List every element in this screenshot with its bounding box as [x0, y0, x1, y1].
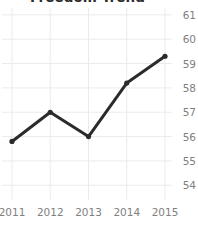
chart-canvas: [0, 0, 198, 225]
y-axis-tick-label: 58: [183, 83, 196, 94]
y-axis-tick-label: 56: [183, 131, 196, 142]
vertical-gridlines: [12, 8, 165, 200]
data-point-marker: [48, 110, 53, 115]
x-axis-tick-label: 2014: [113, 207, 140, 218]
horizontal-gridlines: [2, 15, 172, 185]
x-axis-tick-label: 2015: [152, 207, 179, 218]
data-point-marker: [162, 54, 167, 59]
y-axis-tick-label: 59: [183, 58, 196, 69]
y-axis-tick-label: 60: [183, 34, 196, 45]
y-axis-tick-label: 55: [183, 156, 196, 167]
x-axis-tick-label: 2012: [37, 207, 64, 218]
y-axis-tick-label: 54: [183, 180, 196, 191]
x-axis-tick-label: 2011: [0, 207, 25, 218]
y-axis-tick-label: 61: [183, 10, 196, 21]
plot-area: 6160595857565554 20112012201320142015: [0, 0, 198, 225]
data-point-marker: [124, 80, 129, 85]
line-chart: Freedom Trend 6160595857565554 201120122…: [0, 0, 198, 225]
data-point-marker: [86, 134, 91, 139]
x-axis-tick-label: 2013: [75, 207, 102, 218]
y-axis-tick-label: 57: [183, 107, 196, 118]
data-point-marker: [9, 139, 14, 144]
